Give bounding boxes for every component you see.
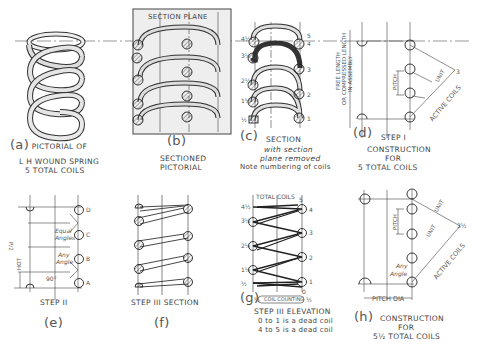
panel-f-letter: (f)	[154, 318, 170, 327]
panel-c-line1: with section	[264, 145, 313, 154]
panel-c-line3: Note numbering of coils	[240, 163, 331, 172]
coil-counting-label: COIL COUNTING	[264, 296, 304, 302]
panel-c-title: SECTION	[266, 135, 301, 144]
any-angle-2: Angle	[56, 258, 73, 265]
c-left-num: 3½	[241, 52, 251, 59]
wire-section	[133, 40, 143, 50]
wire-section	[133, 99, 143, 109]
wire-section	[182, 39, 192, 49]
d-number: 3	[456, 68, 460, 75]
g-left-num: 3½	[241, 217, 251, 224]
panel-d-line1: CONSTRUCTION	[367, 145, 431, 154]
any-angle-1: Any	[58, 251, 69, 258]
g-right-num: 0	[302, 288, 306, 295]
c-right-num: 4	[307, 40, 311, 47]
g-left-num: ½	[241, 280, 247, 287]
wire-section	[133, 115, 143, 125]
h-pitch-label: PITCH	[392, 214, 398, 230]
panel-h-line3: 5½ TOTAL COILS	[373, 332, 440, 341]
panel-g-line1: 0 to 1 is a dead coil	[258, 317, 333, 326]
g-left-num: 1½	[241, 266, 251, 273]
h-any-angle-2: Angle	[390, 270, 407, 277]
g-left-num: 4½	[241, 203, 251, 210]
panel-a-line2: L H WOUND SPRING	[19, 157, 99, 166]
panel-b-line2: PICTORIAL	[160, 163, 202, 172]
wire-section	[132, 53, 142, 63]
g-right-num: 3	[309, 229, 313, 236]
wire-section	[133, 75, 143, 85]
construction-five-half	[358, 189, 460, 300]
panel-h-line2: FOR	[398, 323, 414, 332]
panel-e-letter: (e)	[44, 318, 63, 327]
g-right-num: 4	[309, 206, 313, 213]
g-right-num: 2	[309, 254, 313, 261]
panel-d-line3: 5 TOTAL COILS	[358, 163, 418, 172]
section-view	[248, 22, 304, 130]
equal-angles-2: Angles	[55, 234, 75, 241]
pitch-dia-label: PITCH DIA	[372, 295, 404, 303]
c-left-num: ½	[241, 116, 247, 123]
section-plane-label: SECTION PLANE	[148, 13, 208, 22]
h-any-angle-1: Any	[396, 262, 407, 269]
wire-section	[182, 112, 192, 122]
pitch-sub-label: P/2	[8, 242, 14, 251]
step-three-elevation	[249, 195, 307, 303]
panel-a-caption: (a) PICTORIAL OF	[10, 140, 87, 151]
point-d: D	[86, 206, 91, 213]
panel-d-step: STEP I	[381, 133, 406, 142]
sectioned-pictorial	[132, 9, 231, 134]
c-right-num: 3	[307, 66, 311, 73]
panel-a-line3: 5 TOTAL COILS	[25, 166, 85, 175]
step-three-section	[135, 195, 193, 295]
total-coils-label: TOTAL COILS	[256, 193, 295, 200]
panel-c-letter: (c)	[240, 131, 258, 140]
point-b: B	[86, 255, 90, 262]
c-right-num: 5	[307, 32, 311, 39]
pitch-label: PITCH	[392, 74, 398, 90]
g-left-num: 2½	[241, 242, 251, 249]
panel-e-step: STEP II	[40, 298, 68, 307]
panel-b-letter: (b)	[167, 136, 186, 145]
pictorial-spring	[29, 34, 83, 138]
panel-a-line1: PICTORIAL OF	[32, 142, 87, 151]
point-a: A	[86, 279, 90, 286]
panel-g-line2: 4 to 5 is a dead coil	[258, 326, 333, 335]
panel-b-line1: SECTIONED	[160, 154, 206, 163]
panel-h-letter: (h)	[354, 312, 373, 321]
panel-d-line2: FOR	[385, 154, 401, 163]
panel-g-step: STEP III ELEVATION	[254, 307, 331, 316]
c-right-num: 2	[307, 91, 311, 98]
h-number: 3½	[457, 222, 467, 229]
wire-section	[182, 67, 192, 77]
panel-c-line2: plane removed	[260, 154, 321, 163]
g-bottom-right: ½	[306, 296, 312, 303]
g-bottom-left: ½	[254, 296, 260, 303]
wire-section	[182, 91, 192, 101]
c-right-num: 1	[307, 115, 311, 122]
c-left-num: 2½	[241, 77, 251, 84]
panel-d-letter: (d)	[353, 128, 372, 137]
angle-90: 90°	[46, 275, 57, 282]
c-left-num: 4½	[241, 35, 251, 42]
g-right-num: 5	[299, 196, 303, 203]
pitch-half-label: HOT	[16, 258, 22, 270]
panel-f-step: STEP III SECTION	[131, 298, 199, 307]
g-right-num: 1	[309, 278, 313, 285]
in-assembly-label: IN ASSEMBLY	[347, 56, 353, 92]
step-two-construction	[14, 195, 84, 300]
c-left-num: 1½	[241, 97, 251, 104]
panel-h-line1: CONSTRUCTION	[380, 314, 444, 323]
equal-angles-1: Equal	[55, 227, 72, 234]
panel-a-letter: (a)	[10, 137, 29, 152]
point-c: C	[86, 231, 90, 238]
